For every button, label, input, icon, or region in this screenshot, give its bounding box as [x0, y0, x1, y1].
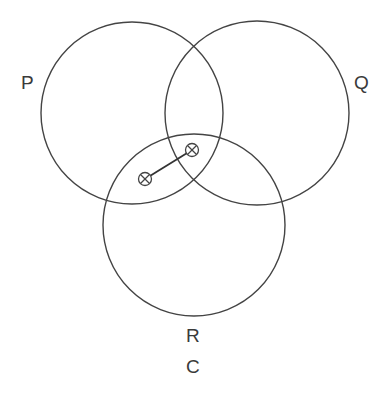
- label-q: Q: [354, 73, 369, 92]
- circled-x-marker-icon: [186, 144, 199, 157]
- circle-p: [41, 22, 223, 204]
- circle-q: [165, 21, 349, 205]
- circle-r: [103, 134, 285, 316]
- caption-label: C: [186, 357, 200, 376]
- connector-line: [145, 150, 192, 179]
- label-p: P: [21, 73, 34, 92]
- label-r: R: [186, 326, 200, 345]
- circled-x-marker-icon: [139, 173, 152, 186]
